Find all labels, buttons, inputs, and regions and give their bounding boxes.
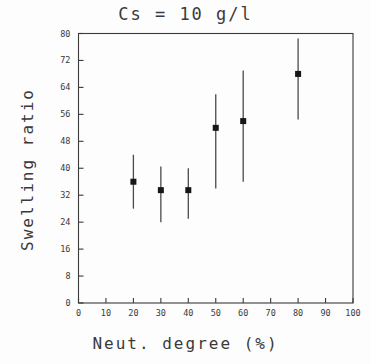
- x-tick-label: 50: [211, 308, 221, 318]
- x-tick-label: 0: [76, 308, 81, 318]
- x-tick-label: 90: [320, 308, 330, 318]
- data-point-marker: [213, 125, 219, 131]
- data-point-marker: [158, 187, 164, 193]
- y-tick-label: 72: [60, 55, 70, 65]
- y-tick-label: 48: [60, 136, 70, 146]
- data-point-marker: [185, 187, 191, 193]
- y-tick-label: 80: [60, 29, 70, 39]
- x-tick-label: 70: [266, 308, 276, 318]
- y-tick-label: 24: [60, 217, 70, 227]
- x-tick-label: 60: [238, 308, 248, 318]
- x-tick-label: 40: [183, 308, 193, 318]
- x-tick-label: 100: [345, 308, 360, 318]
- x-axis-ticks: 0102030405060708090100: [76, 298, 361, 318]
- data-series: [130, 39, 301, 223]
- y-tick-label: 32: [60, 190, 70, 200]
- data-point-marker: [130, 179, 136, 185]
- data-point-marker: [295, 71, 301, 77]
- y-tick-label: 16: [60, 244, 70, 254]
- y-tick-label: 0: [65, 298, 70, 308]
- y-tick-label: 40: [60, 163, 70, 173]
- x-tick-label: 30: [156, 308, 166, 318]
- y-tick-label: 64: [60, 82, 70, 92]
- plot-canvas: 08162432404856647280 0102030405060708090…: [0, 0, 371, 364]
- chart-figure: Cs = 10 g/l Swelling ratio Neut. degree …: [0, 0, 371, 364]
- x-tick-label: 20: [128, 308, 138, 318]
- x-tick-label: 10: [101, 308, 111, 318]
- y-tick-label: 8: [65, 271, 70, 281]
- x-tick-label: 80: [293, 308, 303, 318]
- y-tick-label: 56: [60, 109, 70, 119]
- data-point-marker: [240, 118, 246, 124]
- y-axis-ticks: 08162432404856647280: [60, 29, 83, 309]
